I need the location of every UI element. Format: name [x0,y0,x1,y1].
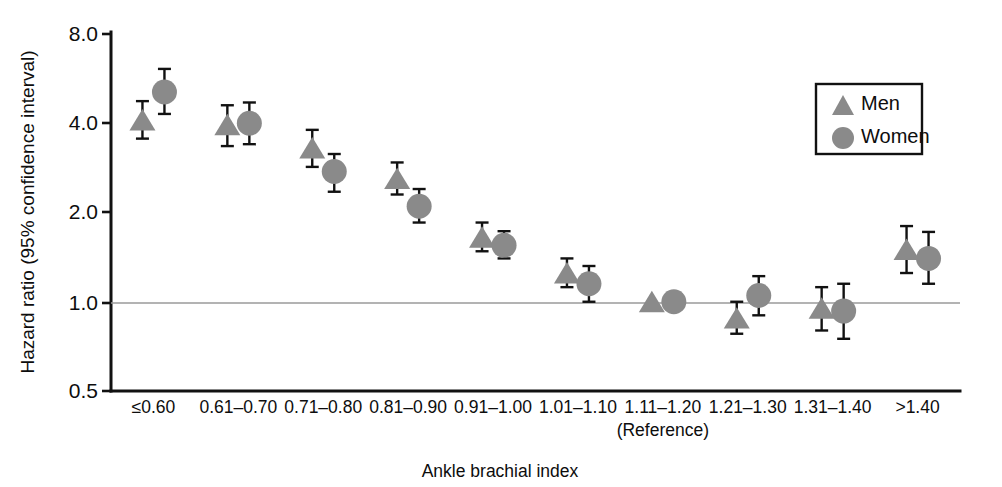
marker-triangle [299,137,325,158]
data-point-women-5 [576,266,601,302]
marker-circle [492,233,517,258]
marker-circle [746,283,771,308]
y-tick-label-1: 1.0 [69,291,98,314]
data-point-women-6 [661,289,686,314]
marker-triangle [809,297,835,318]
legend-label-men: Men [861,92,900,114]
marker-circle [916,246,941,271]
data-point-women-9 [916,232,941,284]
marker-circle [407,194,432,219]
x-tick-label-1: 0.61–0.70 [199,397,277,417]
data-point-men-2 [299,130,325,167]
marker-triangle [554,262,580,283]
chart-canvas: Hazard ratio (95% confidence interval) 8… [0,0,1002,487]
x-tick-label-4: 0.91–1.00 [454,397,532,417]
x-tick-sublabel-6: (Reference) [617,420,709,440]
data-point-women-1 [237,102,262,144]
marker-circle [152,79,177,104]
y-tick-label-0-5: 0.5 [69,379,98,402]
data-point-women-8 [831,284,856,339]
data-point-men-6 [639,291,665,312]
marker-circle [661,289,686,314]
data-point-men-0 [129,101,155,138]
y-axis-title: Hazard ratio (95% confidence interval) [17,50,38,373]
y-tick-label-4: 4.0 [69,111,98,134]
data-point-men-7 [724,302,750,334]
x-tick-label-8: 1.31–1.40 [794,397,872,417]
data-point-men-1 [214,105,240,146]
y-axis-ticks: 8.0 4.0 2.0 1.0 0.5 [69,22,111,402]
y-tick-label-2: 2.0 [69,200,98,223]
data-point-women-3 [407,189,432,223]
data-point-women-2 [322,154,347,192]
y-tick-label-8: 8.0 [69,22,98,45]
marker-triangle [384,168,410,189]
x-axis-tick-labels: ≤0.600.61–0.700.71–0.800.81–0.900.91–1.0… [132,397,940,440]
x-tick-label-5: 1.01–1.10 [539,397,617,417]
data-point-men-3 [384,162,410,194]
x-tick-label-6: 1.11–1.20 [625,397,702,417]
legend-circle-icon [832,127,854,149]
data-point-men-4 [469,223,495,252]
x-tick-label-0: ≤0.60 [132,397,176,417]
marker-triangle [129,109,155,130]
marker-circle [237,111,262,136]
data-point-women-4 [492,231,517,258]
marker-circle [322,159,347,184]
hazard-ratio-chart: Hazard ratio (95% confidence interval) 8… [0,0,1002,487]
data-point-women-7 [746,276,771,315]
data-point-women-0 [152,69,177,114]
marker-triangle [894,238,920,259]
marker-circle [831,299,856,324]
data-point-men-5 [554,258,580,287]
marker-triangle [469,226,495,247]
marker-triangle [214,114,240,135]
x-tick-label-2: 0.71–0.80 [284,397,362,417]
marker-triangle [639,291,665,312]
chart-legend[interactable]: Men Women [816,84,930,154]
marker-circle [576,271,601,296]
x-tick-label-3: 0.81–0.90 [369,397,447,417]
x-axis-title: Ankle brachial index [422,461,579,481]
data-point-men-8 [809,287,835,330]
x-tick-label-7: 1.21–1.30 [709,397,787,417]
x-tick-label-9: >1.40 [895,397,940,417]
legend-label-women: Women [861,125,930,147]
marker-triangle [724,307,750,328]
data-point-men-9 [894,226,920,273]
